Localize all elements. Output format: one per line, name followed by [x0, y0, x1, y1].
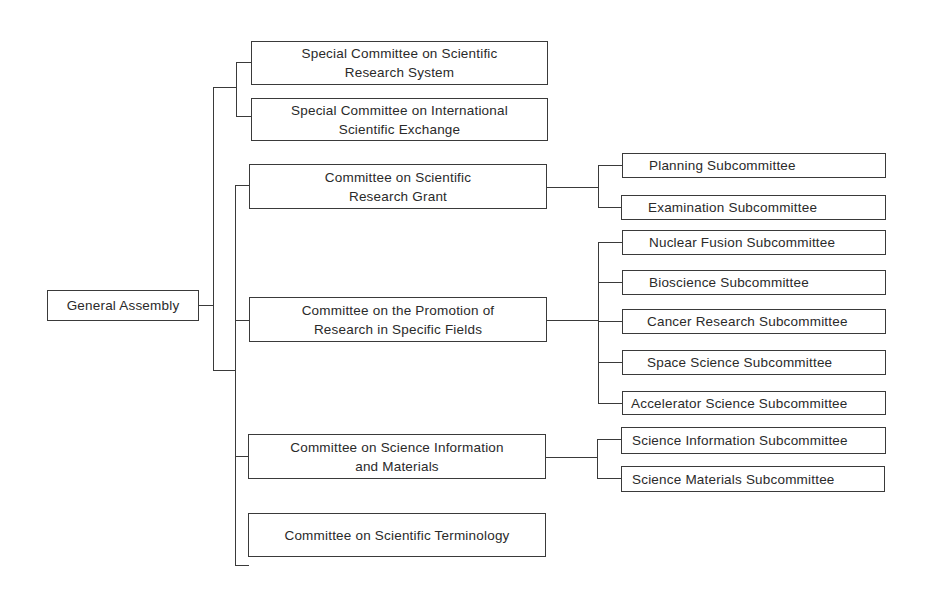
- connector-promotion: [235, 320, 249, 321]
- connector-info-out: [546, 457, 597, 458]
- connector-examination: [598, 207, 622, 208]
- subcommittee-box-accelerator-science: Accelerator Science Subcommittee: [622, 391, 886, 415]
- committee-label: Committee on Scientific Research Grant: [325, 168, 471, 206]
- subcommittee-label: Science Information Subcommittee: [632, 431, 848, 450]
- committee-box-international-exchange: Special Committee on International Scien…: [251, 98, 548, 141]
- committee-label: Special Committee on International Scien…: [291, 101, 508, 139]
- connector-bioscience: [598, 282, 622, 283]
- subcommittee-label: Accelerator Science Subcommittee: [631, 394, 848, 413]
- connector-trunk-outer: [213, 87, 214, 371]
- committee-box-terminology: Committee on Scientific Terminology: [248, 513, 546, 557]
- subcommittee-box-bioscience: Bioscience Subcommittee: [622, 270, 886, 295]
- connector-inner-join: [213, 370, 236, 371]
- committee-box-research-grant: Committee on Scientific Research Grant: [249, 164, 547, 209]
- general-assembly-box: General Assembly: [47, 290, 199, 321]
- committee-label: Committee on Science Information and Mat…: [290, 438, 504, 476]
- subcommittee-box-science-materials: Science Materials Subcommittee: [621, 466, 885, 492]
- committee-label: Special Committee on Scientific Research…: [301, 44, 497, 82]
- connector-grant-out: [547, 187, 598, 188]
- connector-science-materials: [597, 478, 621, 479]
- connector-grant-bracket: [598, 165, 599, 208]
- connector-nuclear: [598, 242, 622, 243]
- committee-box-promotion: Committee on the Promotion of Research i…: [249, 297, 547, 342]
- subcommittee-box-cancer-research: Cancer Research Subcommittee: [622, 309, 886, 334]
- subcommittee-label: Planning Subcommittee: [649, 156, 796, 175]
- connector-special-1: [236, 62, 251, 63]
- committee-box-science-info-materials: Committee on Science Information and Mat…: [248, 434, 546, 479]
- connector-info: [235, 456, 249, 457]
- connector-special-bracket: [236, 62, 237, 117]
- subcommittee-label: Nuclear Fusion Subcommittee: [649, 233, 835, 252]
- committee-label: Committee on Scientific Terminology: [284, 526, 509, 545]
- connector-terminology: [235, 565, 249, 566]
- committee-label: Committee on the Promotion of Research i…: [302, 301, 495, 339]
- subcommittee-box-science-information: Science Information Subcommittee: [621, 427, 886, 454]
- connector-accelerator: [598, 403, 622, 404]
- subcommittee-label: Science Materials Subcommittee: [632, 470, 835, 489]
- connector-promotion-bracket: [598, 242, 599, 404]
- connector-planning: [598, 165, 622, 166]
- subcommittee-label: Cancer Research Subcommittee: [647, 312, 848, 331]
- connector-cancer: [598, 321, 622, 322]
- connector-space: [598, 362, 622, 363]
- subcommittee-box-planning: Planning Subcommittee: [622, 153, 886, 178]
- connector-trunk-inner: [235, 185, 236, 566]
- subcommittee-label: Space Science Subcommittee: [647, 353, 832, 372]
- general-assembly-label: General Assembly: [67, 296, 180, 315]
- subcommittee-box-nuclear-fusion: Nuclear Fusion Subcommittee: [622, 230, 886, 255]
- subcommittee-box-space-science: Space Science Subcommittee: [622, 350, 886, 375]
- connector-grant: [235, 185, 249, 186]
- connector-root-out: [199, 305, 214, 306]
- connector-info-bracket: [597, 439, 598, 479]
- connector-promotion-out: [547, 320, 598, 321]
- committee-box-research-system: Special Committee on Scientific Research…: [251, 41, 548, 85]
- subcommittee-label: Examination Subcommittee: [648, 198, 817, 217]
- subcommittee-label: Bioscience Subcommittee: [649, 273, 809, 292]
- connector-special-2: [236, 116, 251, 117]
- connector-special-join: [213, 87, 237, 88]
- connector-science-info: [597, 439, 621, 440]
- subcommittee-box-examination: Examination Subcommittee: [621, 195, 886, 220]
